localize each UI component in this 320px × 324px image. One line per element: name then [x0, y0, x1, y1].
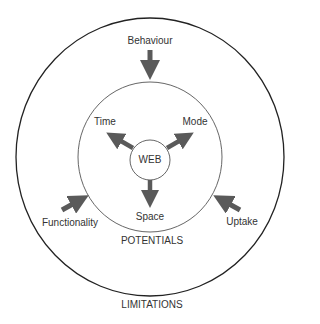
time-label: Time [94, 117, 116, 127]
web-label: WEB [139, 155, 162, 165]
uptake-label: Uptake [226, 217, 258, 227]
potentials-label: POTENTIALS [121, 236, 183, 246]
arrow-to-mode [167, 137, 186, 148]
behaviour-label: Behaviour [127, 36, 172, 46]
mode-label: Mode [182, 117, 207, 127]
functionality-label: Functionality [42, 218, 98, 228]
arrow-from-functionality [62, 200, 80, 210]
arrow-from-uptake [222, 200, 240, 210]
space-label: Space [136, 212, 164, 222]
arrow-to-time [114, 137, 133, 148]
limitations-label: LIMITATIONS [121, 300, 182, 310]
